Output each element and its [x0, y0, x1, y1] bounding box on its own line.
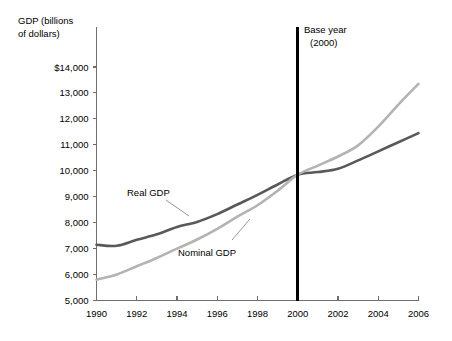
series-line-nominal-gdp	[97, 84, 419, 280]
x-tick-label-2004: 2004	[368, 308, 389, 319]
y-tick-label-13000: 13,000	[59, 87, 88, 98]
y-tick-label-7000: 7,000	[65, 243, 89, 254]
y-tick-label-5000: 5,000	[65, 295, 89, 306]
chart-canvas: GDP (billions of dollars) 5,0006,0007,00…	[0, 0, 452, 341]
chart-series	[97, 84, 419, 280]
real-gdp-label: Real GDP	[127, 187, 170, 198]
base-year-label-line1: Base year	[304, 24, 347, 35]
y-axis-title: GDP (billions of dollars)	[18, 15, 74, 39]
x-axis-ticks: 199019921994199619982000200220042006	[86, 296, 429, 319]
x-tick-label-2006: 2006	[408, 308, 429, 319]
y-axis-ticks: 5,0006,0007,0008,0009,00010,00011,00012,…	[54, 62, 96, 307]
x-tick-label-1996: 1996	[207, 308, 228, 319]
nominal-gdp-leader-line	[232, 219, 250, 240]
y-tick-label-8000: 8,000	[65, 217, 89, 228]
chart-axes	[97, 27, 419, 301]
y-tick-label-11000: 11,000	[60, 139, 88, 150]
y-axis-title-line1: GDP (billions	[18, 15, 74, 26]
x-tick-label-1994: 1994	[166, 308, 187, 319]
y-tick-label-10000: 10,000	[59, 165, 88, 176]
gdp-line-chart: GDP (billions of dollars) 5,0006,0007,00…	[0, 0, 452, 341]
x-tick-label-1990: 1990	[86, 308, 107, 319]
y-tick-label-12000: 12,000	[59, 113, 88, 124]
x-tick-label-2000: 2000	[287, 308, 308, 319]
y-tick-label-9000: 9,000	[65, 191, 89, 202]
series-annotations: Real GDP Nominal GDP	[127, 187, 250, 258]
x-tick-label-2002: 2002	[327, 308, 348, 319]
base-year-label-line2: (2000)	[310, 37, 337, 48]
y-tick-label-6000: 6,000	[65, 269, 89, 280]
real-gdp-leader-line	[166, 200, 189, 216]
x-tick-label-1992: 1992	[126, 308, 147, 319]
x-tick-label-1998: 1998	[247, 308, 268, 319]
y-axis-title-line2: of dollars)	[18, 28, 60, 39]
nominal-gdp-label: Nominal GDP	[178, 247, 236, 258]
y-tick-label-14000: $14,000	[54, 62, 88, 73]
